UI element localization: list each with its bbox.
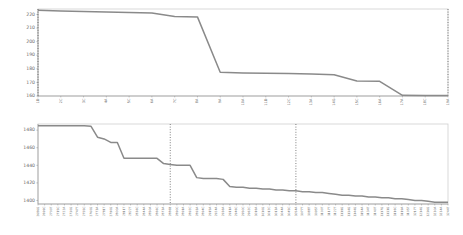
x-tick-label: 3117G [380, 206, 384, 217]
x-tick-label: 2962C [247, 207, 251, 217]
y-tick-label: 1420 [23, 180, 35, 185]
x-tick-label: 3016A [254, 206, 258, 217]
x-tick-label: 6A [150, 98, 154, 103]
x-tick-label: 2755C [82, 207, 86, 217]
y-tick-label: 1440 [23, 163, 35, 168]
x-tick-label: 2800A [115, 206, 119, 217]
x-tick-label: 3119G [340, 206, 344, 217]
y-tick-label: 190 [26, 52, 35, 57]
x-tick-label: 2747T [75, 206, 79, 216]
x-tick-label: 3054A [294, 206, 298, 217]
x-tick-label: 3012C [267, 207, 271, 217]
x-tick-label: 9A [218, 98, 222, 103]
x-tick-label: 3105T [406, 206, 410, 216]
x-tick-label: 2822T [128, 206, 132, 216]
x-tick-label: 3144G [353, 206, 357, 217]
x-tick-label: 3214G [419, 206, 423, 217]
x-tick-label: 2700T [49, 206, 53, 216]
dual-chart-figure: 1601701801902002102201D2C3C4A5C6A7C8A9A1… [0, 0, 463, 235]
top-chart-svg: 1601701801902002102201D2C3C4A5C6A7C8A9A1… [0, 0, 463, 118]
x-tick-label: 3230A [433, 206, 437, 217]
x-tick-label: 8A [195, 98, 199, 103]
x-tick-label: 13A [309, 98, 313, 105]
x-tick-label: 2730G [69, 206, 73, 217]
x-tick-label: 2C [59, 98, 63, 103]
x-tick-label: 3244T [446, 206, 450, 216]
x-tick-label: 19A [446, 98, 450, 105]
x-tick-label: 2715C [56, 207, 60, 217]
plot-frame [38, 124, 448, 204]
x-tick-label: 17A [400, 98, 404, 105]
x-tick-label: 2844A [142, 206, 146, 217]
x-tick-label: 2891A [181, 206, 185, 217]
x-tick-label: 11D [264, 98, 268, 105]
bottom-chart-svg: 140014201440146014802686G2699C2700T2715C… [0, 118, 463, 235]
x-tick-label: 2760G [89, 206, 93, 217]
x-tick-label: 3100T [320, 206, 324, 216]
data-series-line [38, 10, 448, 95]
x-tick-label: 1D [36, 98, 40, 103]
x-tick-label: 2936A [221, 206, 225, 217]
x-tick-label: 2811T [122, 206, 126, 216]
x-tick-label: 2781T [102, 206, 106, 216]
x-tick-label: 15C [355, 98, 359, 105]
y-tick-label: 220 [26, 12, 35, 17]
x-tick-label: 2946C [234, 207, 238, 217]
y-tick-label: 1480 [23, 127, 35, 132]
x-tick-label: 3088T [307, 206, 311, 216]
x-tick-label: 16A [378, 98, 382, 105]
y-tick-label: 180 [26, 66, 35, 71]
x-tick-label: 3134G [347, 206, 351, 217]
x-tick-label: 2790G [109, 206, 113, 217]
y-tick-label: 210 [26, 25, 35, 30]
x-tick-label: 3116C [393, 207, 397, 217]
data-series-line [38, 126, 448, 202]
x-tick-label: 5C [127, 98, 131, 103]
x-tick-label: 3095T [314, 206, 318, 216]
x-tick-label: 3010G [261, 206, 265, 217]
top-chart-panel: 1601701801902002102201D2C3C4A5C6A7C8A9A1… [0, 0, 463, 118]
x-tick-label: 3154A [360, 206, 364, 217]
x-tick-label: 3044A [280, 206, 284, 217]
x-tick-label: 3045C [287, 207, 291, 217]
y-tick-label: 1400 [23, 198, 35, 203]
x-tick-label: 2886B [168, 207, 172, 217]
bottom-chart-panel: 140014201440146014802686G2699C2700T2715C… [0, 118, 463, 235]
x-tick-label: 3131G [386, 206, 390, 217]
x-tick-label: 3140T [373, 206, 377, 216]
x-tick-label: 3236G [426, 206, 430, 217]
x-tick-label: 2866C [155, 207, 159, 217]
x-tick-label: 2893A [195, 206, 199, 217]
x-tick-label: 3077T [300, 206, 304, 216]
x-tick-label: 2924A [214, 206, 218, 217]
x-tick-label: 3C [82, 98, 86, 103]
x-tick-label: 2699C [42, 207, 46, 217]
y-tick-label: 1460 [23, 145, 35, 150]
y-tick-label: 160 [26, 93, 35, 98]
x-tick-label: 2911A [228, 206, 232, 217]
x-tick-label: 2850A [148, 206, 152, 217]
x-tick-label: 3217T [413, 206, 417, 216]
x-tick-label: 3234A [439, 206, 443, 217]
x-tick-label: 12C [287, 98, 291, 105]
y-tick-label: 200 [26, 39, 35, 44]
x-tick-label: 7C [173, 98, 177, 103]
y-tick-label: 170 [26, 80, 35, 85]
x-tick-label: 2836C [135, 207, 139, 217]
x-tick-label: 2950C [241, 207, 245, 217]
x-tick-label: 2722A [62, 206, 66, 217]
x-tick-label: 3134T [366, 206, 370, 216]
x-tick-label: 2892C [188, 207, 192, 217]
x-tick-label: 2873A [161, 206, 165, 217]
x-tick-label: 3117T [327, 206, 331, 216]
x-tick-label: 2686G [36, 206, 40, 217]
x-tick-label: 2915A [208, 206, 212, 217]
x-tick-label: 3013A [274, 206, 278, 217]
x-tick-label: 4A [104, 98, 108, 103]
x-tick-label: 10A [241, 98, 245, 105]
x-tick-label: 3122T [333, 206, 337, 216]
x-tick-label: 14G [332, 98, 336, 105]
x-tick-label: 2890C [175, 207, 179, 217]
x-tick-label: 18C [423, 98, 427, 105]
x-tick-label: 2894C [201, 207, 205, 217]
